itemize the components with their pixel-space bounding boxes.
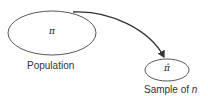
population-sample-diagram: π Population π̂ Sample of n	[0, 0, 208, 96]
sampling-arrow	[73, 12, 164, 57]
population-parameter: π	[49, 26, 55, 36]
diagram-shapes	[0, 0, 208, 96]
sample-label-text: Sample of	[144, 84, 192, 95]
sample-statistic: π̂	[164, 63, 170, 73]
sample-size-variable: n	[192, 84, 198, 95]
sample-label: Sample of n	[144, 84, 197, 95]
population-label: Population	[27, 60, 74, 71]
